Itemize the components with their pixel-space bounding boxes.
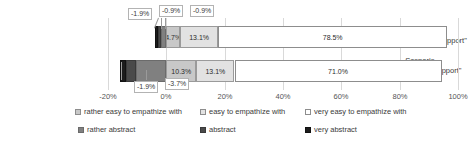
diverging-stacked-bar-chart: Scenario "moderate need for support" Sce…	[0, 0, 472, 148]
segment-value-label: 10.3%	[171, 68, 191, 75]
segment-rather-easy: 4.7%	[166, 26, 180, 48]
segment-value-label: 13.1%	[189, 34, 209, 41]
xtick-100: 100%	[438, 92, 472, 101]
xtick-40: 40%	[263, 92, 303, 101]
leader-line	[165, 18, 166, 29]
callout-label: -1.9%	[137, 83, 155, 90]
segment-easy: 13.1%	[196, 60, 234, 82]
segment-abstract	[126, 60, 137, 82]
legend-swatch-icon	[305, 127, 311, 133]
callout-label: -1.9%	[131, 10, 149, 17]
leader-line	[121, 62, 122, 80]
callout-abstract-higher: -3.7%	[165, 78, 189, 90]
leader-line	[161, 18, 162, 29]
bar-row-higher: 10.3% 13.1% 71.0%	[108, 60, 458, 82]
legend-swatch-icon	[75, 109, 81, 115]
legend-label: very abstract	[314, 125, 357, 134]
legend-row-abstract: rather abstract abstract very abstract	[0, 125, 472, 143]
callout-very-abstract-higher: -1.9%	[134, 81, 158, 93]
gridline-100	[458, 18, 459, 90]
legend-item-rather-easy[interactable]: rather easy to empathize with	[75, 107, 182, 116]
legend-item-rather-abstract[interactable]: rather abstract	[78, 125, 135, 134]
legend-swatch-icon	[200, 127, 206, 133]
legend-item-very-abstract[interactable]: very abstract	[305, 125, 357, 134]
xtick-0: 0%	[146, 92, 186, 101]
callout-label: -0.9%	[193, 7, 211, 14]
segment-easy: 13.1%	[180, 26, 218, 48]
legend-item-abstract[interactable]: abstract	[200, 125, 236, 134]
segment-value-label: 4.7%	[166, 34, 180, 41]
callout-rather-abstract-moderate: -1.9%	[128, 8, 152, 20]
legend-item-very-easy[interactable]: very easy to empathize with	[305, 107, 407, 116]
legend-row-empathize: rather easy to empathize with easy to em…	[0, 107, 472, 125]
xtick-20: 20%	[205, 92, 245, 101]
callout-very-abstract-moderate: -0.9%	[190, 5, 214, 17]
callout-label: -0.9%	[162, 7, 180, 14]
callout-abstract-moderate: -0.9%	[159, 5, 183, 17]
xtick-80: 80%	[380, 92, 420, 101]
legend-label: rather abstract	[87, 125, 135, 134]
leader-line	[146, 70, 147, 80]
legend-swatch-icon	[305, 109, 311, 115]
callout-label: -3.7%	[168, 80, 186, 87]
bar-row-moderate: 4.7% 13.1% 78.5%	[108, 26, 458, 48]
xtick-60: 60%	[321, 92, 361, 101]
segment-value-label: 13.1%	[205, 68, 225, 75]
segment-value-label: 71.0%	[328, 68, 348, 75]
xtick-minus20: -20%	[88, 92, 128, 101]
legend-swatch-icon	[78, 127, 84, 133]
legend-label: abstract	[209, 125, 236, 134]
segment-rather-abstract	[136, 60, 166, 82]
legend-swatch-icon	[200, 109, 206, 115]
segment-value-label: 78.5%	[323, 34, 343, 41]
legend-item-easy[interactable]: easy to empathize with	[200, 107, 285, 116]
segment-very-easy: 78.5%	[218, 26, 447, 48]
segment-very-easy: 71.0%	[235, 60, 442, 82]
legend-label: easy to empathize with	[209, 107, 285, 116]
legend-label: very easy to empathize with	[314, 107, 407, 116]
legend: rather easy to empathize with easy to em…	[0, 107, 472, 143]
legend-label: rather easy to empathize with	[84, 107, 182, 116]
